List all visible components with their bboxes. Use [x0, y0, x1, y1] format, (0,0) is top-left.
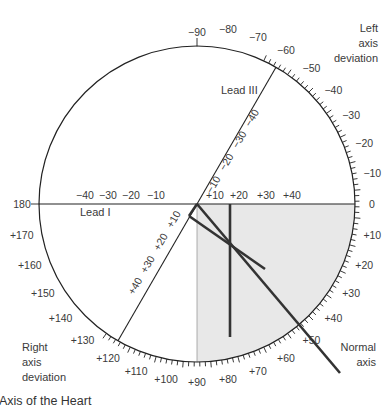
normal-axis-quadrant — [197, 204, 355, 362]
scale-label: +120 — [96, 352, 120, 364]
scale-label: −50 — [303, 62, 321, 74]
scale-label: +80 — [219, 373, 237, 385]
right-axis-deviation-line-2: axis — [22, 355, 66, 370]
scale-label: −40 — [324, 84, 342, 96]
left-axis-deviation-line-2: axis — [334, 36, 378, 51]
lead-I-negative-label: −40 — [76, 189, 94, 201]
hexaxial-diagram: −90−80−70−60−50−40−30−20−100+10+20+30+40… — [0, 0, 390, 406]
lead-I-positive-label: +30 — [257, 189, 275, 201]
scale-label: +90 — [188, 376, 206, 388]
scale-label: −20 — [355, 137, 373, 149]
scale-label: +100 — [154, 373, 178, 385]
figure-caption: Axis of the Heart — [0, 394, 91, 406]
lead-III-positive-label: +10 — [164, 208, 183, 230]
normal-axis-line-2: axis — [328, 355, 376, 370]
lead-III-positive-label: +40 — [125, 275, 144, 297]
scale-label: 180 — [13, 198, 31, 210]
scale-label: +130 — [71, 334, 95, 346]
left-axis-deviation-label: Left axis deviation — [334, 21, 378, 66]
scale-label: −10 — [363, 167, 381, 179]
right-axis-deviation-line-1: Right — [22, 340, 66, 355]
normal-axis-label: Normal axis — [328, 340, 376, 370]
lead-I-positive-label: +20 — [230, 189, 248, 201]
scale-label: +70 — [249, 365, 267, 377]
scale-label: −90 — [188, 26, 206, 38]
lead-III-negative-label: −30 — [229, 128, 248, 150]
lead-III-negative-label: −40 — [242, 107, 261, 129]
scale-label: −30 — [342, 109, 360, 121]
scale-label: +60 — [277, 352, 295, 364]
lead-III-label: Lead III — [221, 84, 258, 96]
lead-I-negative-label: −10 — [147, 189, 165, 201]
lead-I-positive-label: +40 — [283, 189, 301, 201]
lead-I-label: Lead I — [80, 206, 111, 218]
scale-label: −60 — [277, 44, 295, 56]
lead-I-negative-label: −20 — [122, 189, 140, 201]
scale-label: +150 — [31, 287, 55, 299]
normal-axis-line-1: Normal — [328, 340, 376, 355]
scale-label: +140 — [49, 312, 73, 324]
lead-III-positive-label: +20 — [151, 231, 170, 253]
scale-label: +20 — [355, 259, 373, 271]
scale-label: +10 — [363, 229, 381, 241]
lead-I-negative-label: −30 — [99, 189, 117, 201]
scale-label: −80 — [219, 23, 237, 35]
lead-I-scale-labels: −40−30−20−10+10+20+30+40 — [76, 189, 301, 201]
lead-III-negative-label: −20 — [216, 151, 235, 173]
right-axis-deviation-line-3: deviation — [22, 370, 66, 385]
scale-label: +170 — [10, 229, 34, 241]
scale-label: +160 — [18, 259, 42, 271]
left-axis-deviation-line-3: deviation — [334, 51, 378, 66]
scale-label: −70 — [249, 31, 267, 43]
scale-label: +30 — [342, 287, 360, 299]
left-axis-deviation-line-1: Left — [334, 21, 378, 36]
right-axis-deviation-label: Right axis deviation — [22, 340, 66, 385]
scale-label: +40 — [324, 312, 342, 324]
outer-scale-ticks — [31, 38, 360, 367]
scale-label: 0 — [369, 198, 375, 210]
connector-line — [189, 204, 197, 216]
scale-label: +110 — [125, 365, 148, 377]
lead-III-positive-label: +30 — [138, 253, 157, 275]
